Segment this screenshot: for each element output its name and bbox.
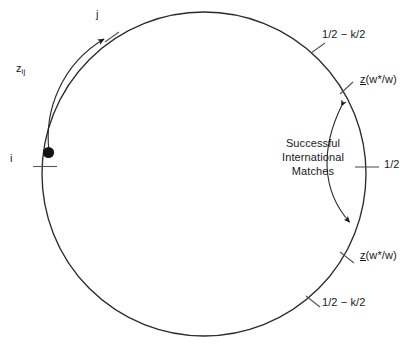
label-successful-line-3: Matches xyxy=(276,165,350,179)
label-z-lower-bound-bottom-arg: (w*/w) xyxy=(366,249,397,261)
label-z-lower-bound-bottom: z(w*/w) xyxy=(360,249,397,263)
label-z-lower-bound-top: z(w*/w) xyxy=(360,73,397,87)
z-ij-arc-arrow xyxy=(48,39,104,151)
label-successful-line-2: International xyxy=(276,151,350,165)
label-z-ij: zij xyxy=(16,62,25,77)
point-i-dot xyxy=(43,147,54,158)
label-z-ij-subscript: ij xyxy=(22,67,26,76)
label-successful-international-matches: Successful International Matches xyxy=(276,137,350,178)
diagram-canvas: j zij i 1/2 − k/2 z(w*/w) 1/2 z(w*/w) 1/… xyxy=(0,0,414,349)
label-half-minus-k-half-top: 1/2 − k/2 xyxy=(322,28,365,42)
label-j: j xyxy=(96,8,99,22)
label-successful-line-1: Successful xyxy=(276,137,350,151)
label-z-lower-bound-top-arg: (w*/w) xyxy=(366,73,397,85)
label-i: i xyxy=(10,152,13,166)
label-half: 1/2 xyxy=(384,158,400,172)
tick-half-minus-k-top xyxy=(311,43,325,53)
tick-half-minus-k-bottom xyxy=(306,296,320,307)
label-half-minus-k-half-bottom: 1/2 − k/2 xyxy=(322,296,365,310)
